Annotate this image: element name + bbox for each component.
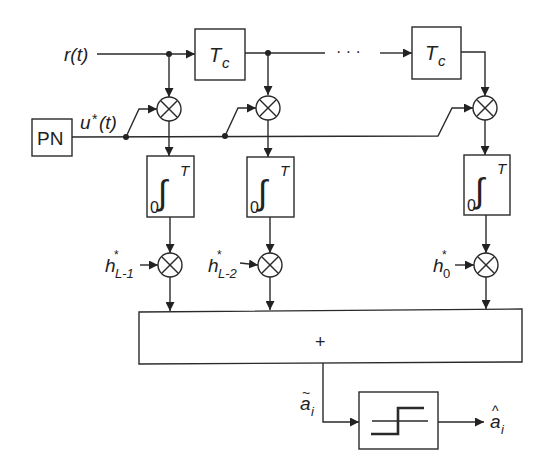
svg-text:u: u <box>80 112 91 133</box>
svg-text:i: i <box>501 422 505 437</box>
weight-label-3: h * 0 <box>433 248 474 281</box>
svg-text:L-1: L-1 <box>115 266 134 281</box>
integrator-3: 0 ∫ T <box>464 155 510 215</box>
summer: + <box>139 309 522 364</box>
multiplier-lower-1 <box>158 253 182 277</box>
delay-element-1: T c <box>195 29 245 80</box>
svg-text:c: c <box>438 52 446 69</box>
svg-text:*: * <box>114 248 119 262</box>
svg-text:(t): (t) <box>99 112 117 133</box>
svg-text:c: c <box>222 54 230 71</box>
decision-device <box>359 392 438 449</box>
svg-text:∫: ∫ <box>473 171 486 210</box>
decision-input-label: a ~ i <box>300 385 315 419</box>
svg-text:0: 0 <box>443 266 450 281</box>
svg-text:PN: PN <box>37 128 63 149</box>
multiplier-upper-1 <box>157 97 181 121</box>
svg-text:T: T <box>209 44 223 66</box>
input-signal-label: r(t) <box>64 44 88 65</box>
decision-output-label: a ^ i <box>490 403 505 437</box>
svg-text:L-2: L-2 <box>218 266 238 281</box>
svg-text:*: * <box>92 111 98 127</box>
ellipsis: · · · <box>336 43 361 60</box>
svg-text:*: * <box>217 248 222 262</box>
svg-text:T: T <box>425 42 439 64</box>
weight-label-2: h * L-2 <box>208 248 258 281</box>
multiplier-upper-3 <box>473 96 497 120</box>
svg-text:∫: ∫ <box>256 173 269 212</box>
svg-text:i: i <box>311 404 315 419</box>
svg-text:∫: ∫ <box>156 173 169 212</box>
integrator-1: 0 ∫ T <box>147 156 194 217</box>
rake-receiver-diagram: r(t) · · · T c T c PN u * (t) <box>0 0 550 470</box>
delay-element-2: T c <box>412 27 461 79</box>
pn-generator: PN <box>32 119 72 156</box>
multiplier-lower-2 <box>258 253 282 277</box>
integrator-2: 0 ∫ T <box>247 157 294 217</box>
multiplier-lower-3 <box>474 253 498 277</box>
multiplier-upper-2 <box>256 96 280 120</box>
svg-text:~: ~ <box>302 385 310 401</box>
weight-label-1: h * L-1 <box>105 248 158 281</box>
svg-text:*: * <box>442 248 447 262</box>
svg-text:^: ^ <box>492 403 499 419</box>
svg-text:+: + <box>315 332 326 352</box>
spreading-code-label: u * (t) <box>80 111 117 133</box>
